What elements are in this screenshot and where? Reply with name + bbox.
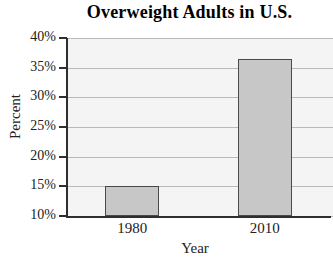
y-tick-mark [59, 37, 67, 39]
gridline [68, 97, 333, 98]
y-tick-label: 25% [6, 118, 56, 134]
y-tick-mark [59, 215, 67, 217]
y-tick-mark [59, 156, 67, 158]
bar [105, 186, 159, 216]
chart-title: Overweight Adults in U.S. [48, 2, 331, 23]
gridline [68, 68, 333, 69]
gridline [68, 38, 333, 39]
x-tick-label: 1980 [87, 220, 177, 237]
x-axis-line [66, 216, 331, 218]
y-tick-label: 35% [6, 59, 56, 75]
y-tick-label: 30% [6, 88, 56, 104]
y-tick-label: 20% [6, 148, 56, 164]
y-tick-mark [59, 185, 67, 187]
y-tick-mark [59, 67, 67, 69]
y-tick-label: 10% [6, 207, 56, 223]
gridline [68, 157, 333, 158]
y-tick-mark [59, 126, 67, 128]
y-tick-label: 40% [6, 29, 56, 45]
y-tick-mark [59, 96, 67, 98]
gridline [68, 127, 333, 128]
x-axis-title: Year [145, 240, 245, 257]
bar [238, 59, 292, 216]
y-tick-label: 15% [6, 177, 56, 193]
x-tick-label: 2010 [220, 220, 310, 237]
